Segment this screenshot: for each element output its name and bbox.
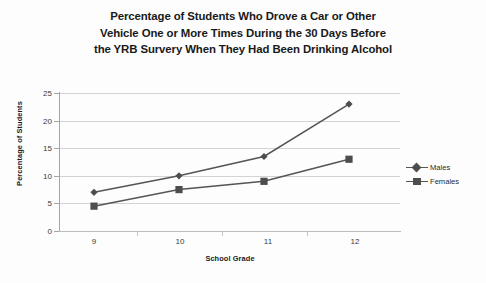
- y-tick-label-20: 20: [30, 116, 52, 125]
- plot-area: [60, 93, 400, 231]
- chart-legend: Males Females: [406, 160, 482, 188]
- y-axis-line: [59, 92, 60, 232]
- gridline-20: [60, 121, 400, 122]
- y-tick-label-10: 10: [30, 171, 52, 180]
- y-tick-label-0: 0: [30, 227, 52, 236]
- legend-entry-males[interactable]: Males: [406, 160, 482, 174]
- x-axis-line: [59, 231, 401, 232]
- chart-title-line-2: Vehicle One or More Times During the 30 …: [22, 25, 464, 42]
- y-tick-mark-0: [54, 231, 59, 232]
- legend-label-males: Males: [428, 163, 450, 172]
- y-tick-mark-15: [54, 148, 59, 149]
- y-tick-mark-25: [54, 93, 59, 94]
- gridline-5: [60, 203, 400, 204]
- y-axis-title: Percentage of Students: [15, 84, 24, 204]
- gridline-15: [60, 148, 400, 149]
- x-tick-mark-1: [137, 231, 138, 236]
- legend-marker-square-icon: [406, 175, 428, 187]
- x-tick-mark-3: [307, 231, 308, 236]
- y-tick-label-5: 5: [30, 199, 52, 208]
- chart-figure: Percentage of Students Who Drove a Car o…: [0, 0, 486, 283]
- y-tick-label-15: 15: [30, 144, 52, 153]
- x-tick-mark-2: [222, 231, 223, 236]
- chart-title-line-3: the YRB Survery When They Had Been Drink…: [22, 41, 464, 58]
- y-tick-mark-20: [54, 121, 59, 122]
- x-axis-title: School Grade: [60, 254, 400, 263]
- x-tick-label-11: 11: [248, 237, 288, 246]
- y-axis-tick-labels: 25 20 15 10 5 0: [26, 0, 52, 283]
- x-tick-label-12: 12: [335, 237, 375, 246]
- gridline-10: [60, 176, 400, 177]
- chart-title-line-1: Percentage of Students Who Drove a Car o…: [22, 8, 464, 25]
- y-tick-label-25: 25: [30, 89, 52, 98]
- legend-marker-diamond-icon: [406, 161, 428, 173]
- chart-title: Percentage of Students Who Drove a Car o…: [22, 8, 464, 58]
- y-tick-mark-5: [54, 203, 59, 204]
- x-tick-label-9: 9: [74, 237, 114, 246]
- gridline-25: [60, 93, 400, 94]
- legend-label-females: Females: [428, 177, 459, 186]
- y-tick-mark-10: [54, 176, 59, 177]
- legend-entry-females[interactable]: Females: [406, 174, 482, 188]
- x-tick-label-10: 10: [160, 237, 200, 246]
